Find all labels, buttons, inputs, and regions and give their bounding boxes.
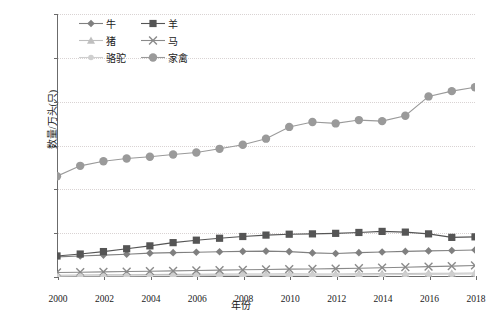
series-5 bbox=[57, 83, 475, 180]
data-point bbox=[379, 272, 385, 277]
legend-label: 猪 bbox=[106, 33, 116, 48]
data-point bbox=[193, 237, 200, 244]
data-point bbox=[471, 83, 475, 91]
x-axis-title: 年份 bbox=[0, 297, 482, 312]
data-point bbox=[310, 272, 316, 277]
legend-marker-icon bbox=[140, 18, 166, 29]
data-point bbox=[169, 150, 177, 158]
y-axis-title: 数量/万头(只) bbox=[44, 65, 59, 175]
legend-item-马[interactable]: 马 bbox=[140, 33, 202, 48]
legend-label: 家禽 bbox=[168, 50, 188, 65]
data-point bbox=[403, 272, 409, 277]
chart-legend: 牛羊猪马骆驼家禽 bbox=[78, 15, 208, 66]
data-point bbox=[122, 154, 130, 162]
data-point bbox=[332, 250, 340, 258]
data-point bbox=[426, 272, 432, 277]
data-point bbox=[146, 249, 154, 257]
data-point bbox=[332, 230, 339, 237]
legend-item-骆驼[interactable]: 骆驼 bbox=[78, 50, 140, 65]
legend-item-猪[interactable]: 猪 bbox=[78, 33, 140, 48]
data-point bbox=[355, 229, 362, 236]
data-point bbox=[217, 273, 223, 277]
data-point bbox=[308, 118, 316, 126]
data-point bbox=[146, 242, 153, 249]
data-point bbox=[355, 116, 363, 124]
data-point bbox=[471, 233, 475, 240]
legend-marker-icon bbox=[140, 35, 166, 46]
series-line bbox=[57, 87, 475, 176]
data-point bbox=[355, 249, 363, 257]
data-point bbox=[285, 123, 293, 131]
data-point bbox=[379, 228, 386, 235]
legend-label: 羊 bbox=[168, 16, 178, 31]
data-point bbox=[309, 230, 316, 237]
data-point bbox=[216, 248, 224, 256]
data-point bbox=[331, 119, 339, 127]
data-point bbox=[239, 248, 247, 256]
data-point bbox=[425, 247, 433, 255]
data-point bbox=[448, 234, 455, 241]
data-point bbox=[192, 148, 200, 156]
legend-item-羊[interactable]: 羊 bbox=[140, 16, 202, 31]
data-point bbox=[146, 153, 154, 161]
data-point bbox=[285, 248, 293, 256]
data-point bbox=[286, 272, 292, 277]
data-point bbox=[215, 145, 223, 153]
data-point bbox=[76, 162, 84, 170]
legend-marker-icon bbox=[78, 18, 104, 29]
x-axis-tick-mark bbox=[476, 276, 477, 280]
data-point bbox=[401, 111, 409, 119]
data-point bbox=[216, 235, 223, 242]
data-point bbox=[240, 273, 246, 277]
data-point bbox=[57, 252, 61, 259]
data-point bbox=[425, 230, 432, 237]
data-point bbox=[402, 229, 409, 236]
data-point bbox=[262, 247, 270, 255]
data-point bbox=[448, 247, 456, 255]
legend-label: 骆驼 bbox=[106, 50, 126, 65]
data-point bbox=[286, 231, 293, 238]
data-point bbox=[378, 248, 386, 256]
data-point bbox=[309, 249, 317, 257]
series-0 bbox=[57, 246, 475, 260]
legend-marker-icon bbox=[78, 35, 104, 46]
data-point bbox=[239, 233, 246, 240]
legend-label: 牛 bbox=[106, 16, 116, 31]
data-point bbox=[170, 239, 177, 246]
data-point bbox=[239, 141, 247, 149]
legend-marker-icon bbox=[140, 52, 166, 63]
data-point bbox=[262, 134, 270, 142]
data-point bbox=[356, 272, 362, 277]
data-point bbox=[262, 231, 269, 238]
data-point bbox=[448, 87, 456, 95]
data-point bbox=[449, 271, 455, 277]
data-point bbox=[471, 246, 475, 254]
legend-item-家禽[interactable]: 家禽 bbox=[140, 50, 202, 65]
legend-item-牛[interactable]: 牛 bbox=[78, 16, 140, 31]
data-point bbox=[402, 248, 410, 256]
data-point bbox=[333, 272, 339, 277]
data-point bbox=[193, 248, 201, 256]
data-point bbox=[263, 273, 269, 277]
data-point bbox=[99, 157, 107, 165]
legend-marker-icon bbox=[78, 52, 104, 63]
legend-label: 马 bbox=[168, 33, 178, 48]
data-point bbox=[123, 245, 130, 252]
data-point bbox=[169, 249, 177, 257]
data-point bbox=[100, 248, 107, 255]
data-point bbox=[424, 92, 432, 100]
data-point bbox=[378, 117, 386, 125]
data-point bbox=[77, 250, 84, 257]
